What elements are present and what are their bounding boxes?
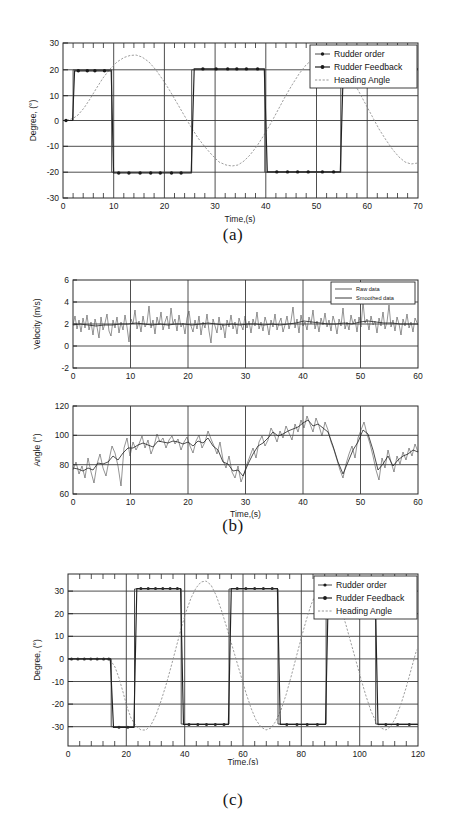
chart-a-legend-label-rudder-order: Rudder order bbox=[334, 49, 385, 59]
chart-c-legend-label-rudder-order: Rudder order bbox=[336, 580, 387, 590]
chart-b-legend-label-raw-data: Raw data bbox=[356, 286, 381, 292]
chart-b-velocity-yticklabel-0: 6 bbox=[64, 275, 69, 285]
chart-c-legend: Rudder order Rudder Feedback Heading Ang… bbox=[314, 576, 417, 619]
chart-a-xticklabel-6: 60 bbox=[362, 201, 372, 211]
chart-a-xaxis-title: Time,(s) bbox=[225, 214, 256, 224]
chart-c-xticklabel-0: 0 bbox=[66, 749, 71, 759]
chart-b-velocity-yticklabel-4: -2 bbox=[61, 363, 69, 373]
chart-b-velocity-xticklabel-6: 60 bbox=[413, 371, 423, 381]
chart-c-plot-area: 30 20 10 0 -10 -20 -30 0 20 40 60 80 100… bbox=[32, 574, 425, 765]
chart-b-velocity-yaxis-title: Velocity (m/s) bbox=[32, 298, 42, 349]
caption-b: (b) bbox=[0, 516, 466, 536]
chart-a-plot-area: 30 20 10 0 -10 -20 -30 0 10 20 30 40 50 … bbox=[28, 38, 423, 224]
chart-a-xticklabel-1: 10 bbox=[109, 201, 119, 211]
chart-b-velocity-yticklabel-3: 0 bbox=[64, 341, 69, 351]
chart-c-legend-marker-rudder-feedback bbox=[323, 596, 327, 600]
chart-a-legend-label-rudder-feedback: Rudder Feedback bbox=[334, 62, 403, 72]
caption-c: (c) bbox=[0, 790, 466, 810]
chart-b-angle-xticklabel-0: 0 bbox=[71, 497, 76, 507]
chart-b-velocity-legend: Raw data Smoothed data bbox=[331, 282, 415, 304]
chart-b-velocity-xticklabel-5: 50 bbox=[356, 371, 366, 381]
chart-a-yticklabel-1: 20 bbox=[50, 65, 60, 75]
chart-b-velocity-xticklabel-3: 30 bbox=[241, 371, 251, 381]
chart-c-yticklabel-0: 30 bbox=[55, 586, 65, 596]
chart-a-yticklabel-0: 30 bbox=[50, 38, 60, 48]
chart-c-legend-label-heading-angle: Heading Angle bbox=[336, 606, 392, 616]
chart-a-xticklabel-0: 0 bbox=[61, 201, 66, 211]
chart-b-angle-plot-area: 120 100 80 60 0 10 20 30 40 50 60 Time,(… bbox=[32, 401, 423, 519]
chart-b-angle-xticklabel-5: 50 bbox=[356, 497, 366, 507]
chart-a-legend-label-heading-angle: Heading Angle bbox=[334, 75, 390, 85]
chart-c-svg: 30 20 10 0 -10 -20 -30 0 20 40 60 80 100… bbox=[18, 560, 448, 765]
chart-b-angle-xticklabel-4: 40 bbox=[298, 497, 308, 507]
chart-c-panel: 30 20 10 0 -10 -20 -30 0 20 40 60 80 100… bbox=[18, 560, 448, 765]
chart-a-yticklabel-4: -10 bbox=[47, 141, 60, 151]
chart-c-yaxis-title: Degree, (°) bbox=[32, 639, 42, 681]
chart-a-xticklabel-4: 40 bbox=[261, 201, 271, 211]
chart-b-velocity-plot-area: 6 4 2 0 -2 0 10 20 30 40 50 60 Velocity … bbox=[32, 275, 423, 381]
chart-c-xticklabel-6: 120 bbox=[411, 749, 425, 759]
chart-b-velocity-yticklabel-2: 2 bbox=[64, 319, 69, 329]
chart-a-xticklabel-5: 50 bbox=[312, 201, 322, 211]
caption-a: (a) bbox=[0, 225, 466, 245]
chart-b-velocity-panel: 6 4 2 0 -2 0 10 20 30 40 50 60 Velocity … bbox=[18, 272, 448, 394]
chart-b-angle-yticklabel-3: 60 bbox=[60, 489, 70, 499]
chart-a-yticklabel-2: 10 bbox=[50, 91, 60, 101]
chart-a-legend-marker-rudder-feedback bbox=[321, 65, 325, 69]
chart-b-angle-xticklabel-6: 60 bbox=[413, 497, 423, 507]
chart-b-angle-yticklabel-2: 80 bbox=[60, 460, 70, 470]
chart-c-xticklabel-5: 100 bbox=[353, 749, 367, 759]
chart-a-yticklabel-5: -20 bbox=[47, 167, 60, 177]
chart-b-angle-tickmarks bbox=[73, 406, 77, 494]
chart-b-velocity-svg: 6 4 2 0 -2 0 10 20 30 40 50 60 Velocity … bbox=[18, 272, 448, 394]
chart-b-angle-xticklabel-2: 20 bbox=[183, 497, 193, 507]
chart-b-angle-gridlines-v bbox=[131, 406, 361, 494]
chart-b-angle-svg: 120 100 80 60 0 10 20 30 40 50 60 Time,(… bbox=[18, 398, 448, 523]
chart-b-velocity-xticklabel-2: 20 bbox=[183, 371, 193, 381]
chart-b-angle-xticklabel-3: 30 bbox=[241, 497, 251, 507]
chart-b-angle-xticklabel-1: 10 bbox=[126, 497, 136, 507]
chart-b-angle-yaxis-title: Angle (°) bbox=[32, 433, 42, 466]
chart-a-yticklabel-3: 0 bbox=[54, 116, 59, 126]
chart-c-legend-marker-rudder-order bbox=[323, 583, 326, 586]
chart-c-yticklabel-1: 20 bbox=[55, 609, 65, 619]
chart-c-yticklabel-4: -10 bbox=[52, 677, 65, 687]
chart-a-svg: 30 20 10 0 -10 -20 -30 0 10 20 30 40 50 … bbox=[18, 26, 448, 231]
figure-panel-set: 30 20 10 0 -10 -20 -30 0 10 20 30 40 50 … bbox=[0, 0, 466, 838]
chart-b-legend-label-smoothed-data: Smoothed data bbox=[356, 295, 395, 301]
chart-a-xticklabel-7: 70 bbox=[413, 201, 423, 211]
chart-a-yticklabel-6: -30 bbox=[47, 193, 60, 203]
chart-a-xticklabel-3: 30 bbox=[210, 201, 220, 211]
chart-b-velocity-yticklabel-1: 4 bbox=[64, 297, 69, 307]
chart-c-legend-label-rudder-feedback: Rudder Feedback bbox=[336, 593, 405, 603]
chart-c-yticklabel-3: 0 bbox=[59, 654, 64, 664]
chart-c-xticklabel-2: 40 bbox=[180, 749, 190, 759]
chart-c-xticklabel-1: 20 bbox=[122, 749, 132, 759]
chart-b-velocity-xticklabel-0: 0 bbox=[71, 371, 76, 381]
chart-c-xticklabel-4: 80 bbox=[297, 749, 307, 759]
chart-a-panel: 30 20 10 0 -10 -20 -30 0 10 20 30 40 50 … bbox=[18, 26, 448, 231]
chart-c-yticklabel-6: -30 bbox=[52, 722, 65, 732]
chart-b-angle-yticklabel-1: 100 bbox=[55, 430, 69, 440]
chart-a-xticklabel-2: 20 bbox=[160, 201, 170, 211]
chart-b-angle-yticklabel-0: 120 bbox=[55, 401, 69, 411]
chart-c-yticklabel-2: 10 bbox=[55, 631, 65, 641]
chart-b-velocity-xticklabel-4: 40 bbox=[298, 371, 308, 381]
chart-b-angle-panel: 120 100 80 60 0 10 20 30 40 50 60 Time,(… bbox=[18, 398, 448, 523]
chart-a-legend-marker-rudder-order bbox=[321, 52, 324, 55]
chart-c-xaxis-title: Time,(s) bbox=[228, 757, 259, 765]
chart-b-velocity-xticklabel-1: 10 bbox=[126, 371, 136, 381]
chart-a-legend: Rudder order Rudder Feedback Heading Ang… bbox=[310, 45, 417, 88]
chart-c-yticklabel-5: -20 bbox=[52, 699, 65, 709]
chart-a-yaxis-title: Degree, (°) bbox=[28, 100, 38, 142]
